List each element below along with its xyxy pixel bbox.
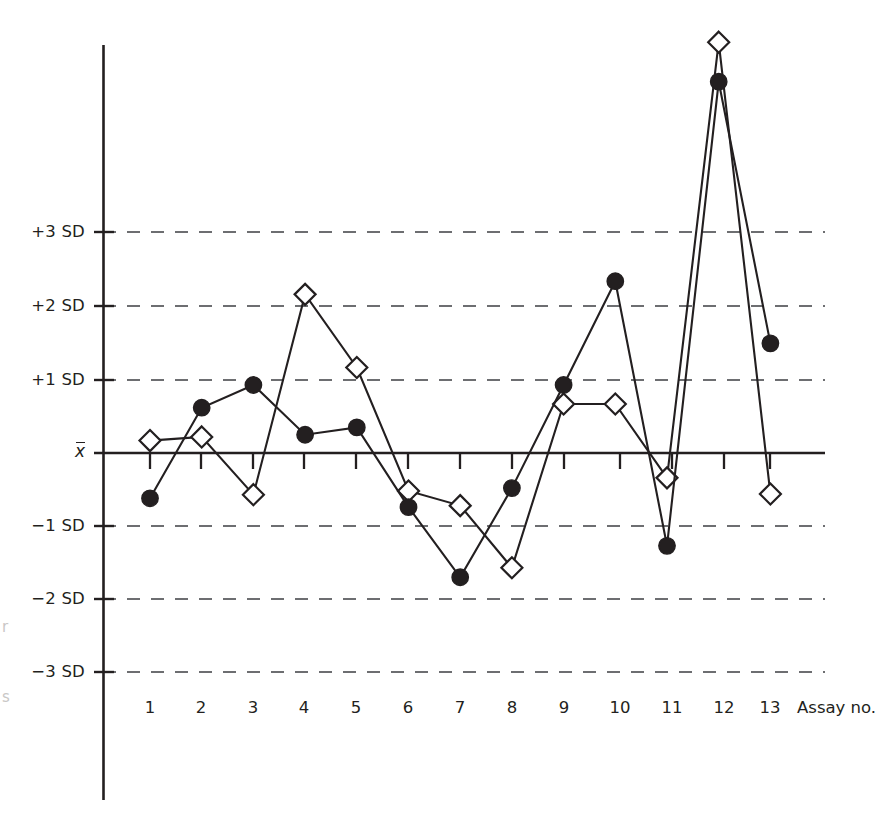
ytick-label-plus2sd: +2 SD [10,296,85,315]
marker-filled-circle[interactable] [711,73,727,89]
x-axis-title: Assay no. [797,698,876,717]
ytick-label-plus3sd: +3 SD [10,222,85,241]
xtick-label-1: 1 [130,698,170,717]
xtick-label-4: 4 [284,698,324,717]
series-line-open-diamond-series [150,42,770,568]
marker-open-diamond[interactable] [760,483,781,504]
ytick-label-minus1sd: −1 SD [10,516,85,535]
marker-filled-circle[interactable] [245,377,261,393]
marker-filled-circle[interactable] [194,399,210,415]
marker-filled-circle[interactable] [555,377,571,393]
marker-filled-circle[interactable] [452,569,468,585]
mean-overbar [76,442,85,443]
xtick-label-6: 6 [388,698,428,717]
ytick-label-minus2sd: −2 SD [10,589,85,608]
xtick-label-12: 12 [704,698,744,717]
xtick-label-13: 13 [750,698,790,717]
marker-open-diamond[interactable] [553,394,574,415]
marker-filled-circle[interactable] [504,480,520,496]
marker-open-diamond[interactable] [140,430,161,451]
marker-open-diamond[interactable] [346,357,367,378]
xtick-label-3: 3 [233,698,273,717]
data-series-layer [140,32,781,586]
xtick-label-7: 7 [440,698,480,717]
marker-filled-circle[interactable] [297,427,313,443]
xtick-label-8: 8 [492,698,532,717]
edge-fragment-lower: s [2,688,10,706]
xtick-label-10: 10 [600,698,640,717]
marker-filled-circle[interactable] [607,273,623,289]
marker-filled-circle[interactable] [349,419,365,435]
xtick-label-5: 5 [336,698,376,717]
marker-filled-circle[interactable] [400,499,416,515]
ytick-label-mean: x [10,441,85,461]
marker-open-diamond[interactable] [605,394,626,415]
ytick-label-minus3sd: −3 SD [10,662,85,681]
marker-filled-circle[interactable] [142,490,158,506]
xtick-label-9: 9 [544,698,584,717]
marker-filled-circle[interactable] [659,538,675,554]
marker-open-diamond[interactable] [708,32,729,53]
edge-fragment-upper: r [2,618,8,636]
xtick-label-11: 11 [652,698,692,717]
xtick-label-2: 2 [181,698,221,717]
marker-open-diamond[interactable] [295,284,316,305]
marker-filled-circle[interactable] [762,335,778,351]
ytick-label-plus1sd: +1 SD [10,370,85,389]
